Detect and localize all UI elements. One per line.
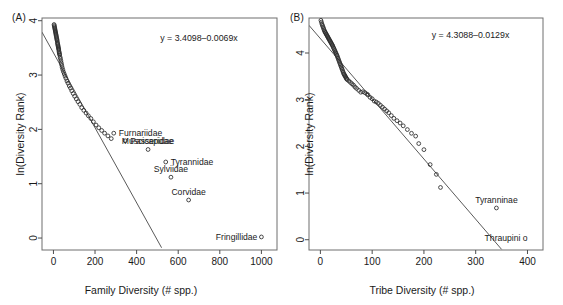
svg-text:Sylviidae: Sylviidae	[154, 164, 189, 174]
svg-text:400: 400	[128, 256, 145, 267]
figure-container: (A) 0200400600800100001234y = 3.4098–0.0…	[0, 0, 563, 305]
svg-text:3: 3	[28, 72, 39, 78]
panel-a-plot: 0200400600800100001234y = 3.4098–0.0069x…	[0, 0, 282, 305]
panel-b-y-axis-title: ln(Diversity Rank)	[303, 74, 315, 194]
svg-text:1: 1	[28, 180, 39, 186]
panel-a-y-axis-title: ln(Diversity Rank)	[14, 74, 26, 194]
svg-text:0: 0	[28, 235, 39, 241]
svg-text:0: 0	[295, 237, 306, 243]
svg-text:Muscicapidae: Muscicapidae	[122, 136, 175, 146]
svg-text:Thraupini o: Thraupini o	[485, 233, 528, 243]
svg-text:2: 2	[28, 126, 39, 132]
svg-text:Fringillidae: Fringillidae	[216, 232, 258, 242]
svg-text:y = 4.3088–0.0129x: y = 4.3088–0.0129x	[432, 30, 510, 40]
svg-text:4: 4	[28, 17, 39, 23]
svg-text:0: 0	[318, 256, 324, 267]
svg-text:600: 600	[170, 256, 187, 267]
panel-b-plot: 010020030040001234y = 4.3088–0.0129xTyra…	[281, 0, 563, 305]
svg-text:300: 300	[467, 256, 484, 267]
svg-text:200: 200	[87, 256, 104, 267]
svg-text:800: 800	[211, 256, 228, 267]
svg-text:0: 0	[51, 256, 57, 267]
panel-a-x-axis-title: Family Diversity (# spp.)	[0, 284, 282, 296]
panel-b: (B) 010020030040001234y = 4.3088–0.0129x…	[281, 0, 563, 305]
svg-text:1000: 1000	[250, 256, 273, 267]
svg-text:400: 400	[519, 256, 536, 267]
panel-b-x-axis-title: Tribe Diversity (# spp.)	[281, 284, 563, 296]
svg-text:100: 100	[364, 256, 381, 267]
svg-text:4: 4	[295, 50, 306, 56]
svg-text:Corvidae: Corvidae	[171, 187, 206, 197]
svg-text:200: 200	[416, 256, 433, 267]
svg-text:y = 3.4098–0.0069x: y = 3.4098–0.0069x	[160, 33, 238, 43]
panel-a: (A) 0200400600800100001234y = 3.4098–0.0…	[0, 0, 282, 305]
svg-text:Tyranninae: Tyranninae	[475, 195, 518, 205]
